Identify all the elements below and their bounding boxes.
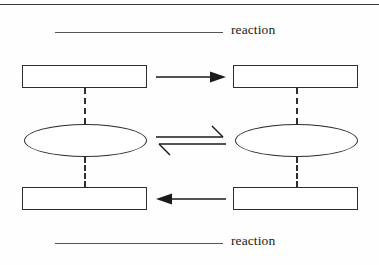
left-ellipse[interactable]: [24, 124, 147, 157]
bottom-reaction-text: reaction: [231, 233, 275, 249]
bottom-arrow-left-icon: [155, 188, 227, 210]
bottom-blank-line[interactable]: [55, 243, 223, 244]
top-reaction-text: reaction: [231, 22, 275, 38]
diagram-page: reaction reaction: [0, 0, 379, 265]
right-bottom-box[interactable]: [233, 187, 358, 210]
right-ellipse[interactable]: [235, 124, 358, 157]
left-lower-dashed-connector: [84, 157, 86, 187]
top-horizontal-rule: [0, 4, 379, 5]
equilibrium-arrow-icon: [155, 122, 227, 158]
left-top-box[interactable]: [22, 65, 147, 88]
right-upper-dashed-connector: [296, 88, 298, 124]
top-blank-line[interactable]: [55, 32, 223, 33]
right-lower-dashed-connector: [296, 157, 298, 187]
left-upper-dashed-connector: [84, 88, 86, 124]
left-bottom-box[interactable]: [22, 187, 147, 210]
top-reaction-label: reaction: [55, 22, 275, 38]
top-arrow-right-icon: [155, 66, 227, 88]
bottom-reaction-label: reaction: [55, 233, 275, 249]
right-top-box[interactable]: [233, 65, 358, 88]
